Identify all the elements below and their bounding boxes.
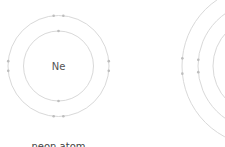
- electron: [197, 71, 200, 74]
- middle-shell: [198, 2, 225, 130]
- outer-shell: [182, 0, 225, 146]
- electron: [57, 30, 60, 33]
- electron: [57, 100, 60, 103]
- atom-caption: neon atom: [31, 141, 85, 147]
- electron: [107, 60, 110, 63]
- electron: [107, 70, 110, 73]
- atom-diagram: Ne neon atom: [0, 0, 225, 147]
- electron: [62, 14, 65, 17]
- neon-atom: Ne neon atom: [7, 14, 110, 147]
- second-atom: [181, 0, 225, 147]
- electron: [181, 57, 184, 60]
- electron: [52, 14, 55, 17]
- element-symbol: Ne: [52, 61, 66, 72]
- electron: [181, 72, 184, 75]
- inner-shell: [213, 17, 225, 115]
- electron: [7, 60, 10, 63]
- electron: [7, 70, 10, 73]
- electron: [197, 59, 200, 62]
- electron: [52, 115, 55, 118]
- electron: [62, 115, 65, 118]
